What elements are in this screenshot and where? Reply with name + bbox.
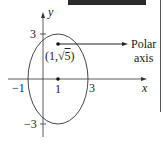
focus-point: [56, 42, 60, 46]
focus-point-label: (1,√5): [45, 50, 75, 62]
polar-axis-arrowhead-icon: [122, 42, 128, 46]
x-axis-label: x: [142, 82, 147, 94]
center-point: [56, 77, 60, 81]
y-tick-3: 3: [30, 28, 36, 40]
polar-axis-arrow: [58, 42, 128, 46]
polar-axis-label-line2: axis: [134, 52, 153, 64]
x-axis: [8, 77, 147, 81]
focus-label-prefix: (1,: [45, 49, 58, 63]
y-axis-arrow-icon: [41, 12, 45, 18]
y-tick-neg3: −3: [24, 118, 37, 130]
sqrt-icon: √: [58, 49, 65, 63]
x-tick-1: 1: [55, 83, 61, 95]
x-tick-neg1: −1: [12, 82, 25, 94]
focus-label-suffix: ): [71, 49, 75, 63]
polar-axis-label-line1: Polar: [131, 38, 156, 50]
y-axis-label: y: [48, 6, 53, 18]
x-tick-3: 3: [89, 82, 95, 94]
